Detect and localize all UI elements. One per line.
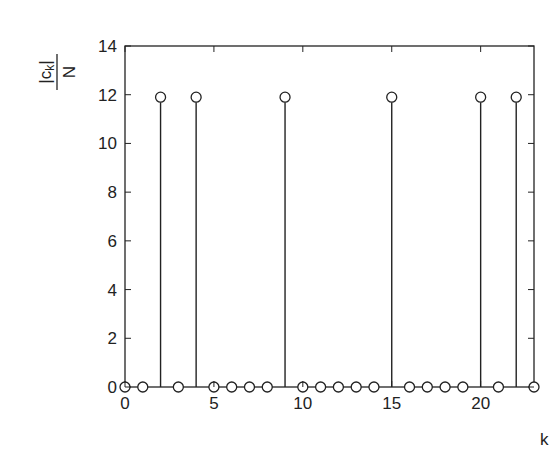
y-tick-label: 2	[108, 329, 117, 348]
y-axis-label: |ck|N	[36, 54, 79, 90]
y-tick-label: 0	[108, 378, 117, 397]
x-tick-label: 15	[382, 394, 401, 413]
stem-marker	[493, 382, 503, 392]
stem-marker	[280, 92, 290, 102]
stem-marker	[333, 382, 343, 392]
y-tick-label: 4	[108, 281, 117, 300]
x-axis: 05101520	[120, 46, 490, 413]
stem-marker	[351, 382, 361, 392]
y-tick-label: 12	[98, 86, 117, 105]
plot-frame	[125, 46, 534, 387]
stem-marker	[511, 92, 521, 102]
y-axis: 02468101214	[98, 37, 534, 397]
stem-marker	[405, 382, 415, 392]
stem-marker	[422, 382, 432, 392]
y-tick-label: 8	[108, 183, 117, 202]
y-tick-label: 14	[98, 37, 117, 56]
y-tick-label: 10	[98, 134, 117, 153]
y-label-fraction: |ck|N	[36, 54, 79, 90]
stem-marker	[440, 382, 450, 392]
x-tick-label: 20	[471, 394, 490, 413]
x-axis-label: k	[540, 430, 549, 449]
stem-marker	[227, 382, 237, 392]
stem-marker	[156, 92, 166, 102]
y-tick-label: 6	[108, 232, 117, 251]
stem-marker	[138, 382, 148, 392]
plot-area	[120, 46, 539, 392]
stem-marker	[458, 382, 468, 392]
x-tick-label: 5	[209, 394, 218, 413]
stem-marker	[262, 382, 272, 392]
stem-chart: 02468101214 05101520 |ck|N k	[0, 0, 557, 457]
stem-marker	[476, 92, 486, 102]
stem-marker	[173, 382, 183, 392]
y-label-denominator: N	[60, 66, 79, 78]
stem-marker	[369, 382, 379, 392]
x-tick-label: 10	[293, 394, 312, 413]
stem-marker	[191, 92, 201, 102]
stem-marker	[316, 382, 326, 392]
x-tick-label: 0	[120, 394, 129, 413]
stem-marker	[387, 92, 397, 102]
stem-marker	[244, 382, 254, 392]
y-label-numerator: |ck|	[36, 60, 57, 83]
